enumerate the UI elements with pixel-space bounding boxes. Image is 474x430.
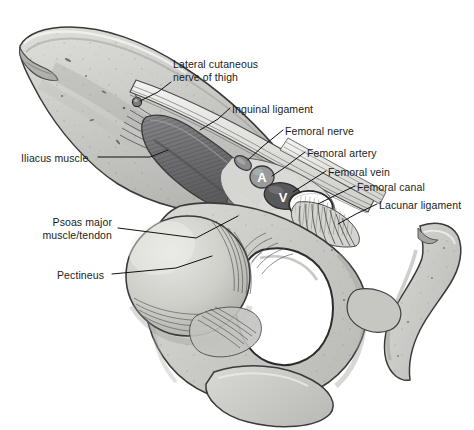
label-line-2: muscle/tendon (42, 229, 112, 241)
label-iliacus-muscle: Iliacus muscle (21, 152, 88, 165)
label-line-2: nerve of thigh (173, 71, 238, 83)
label-inguinal-ligament: Inguinal ligament (232, 103, 313, 116)
label-line-1: Lateral cutaneous (173, 58, 258, 70)
label-femoral-canal: Femoral canal (357, 181, 425, 194)
artery-marker-letter: A (257, 170, 267, 185)
label-lateral-cutaneous-nerve-of-thigh: Lateral cutaneousnerve of thigh (173, 58, 258, 83)
label-femoral-artery: Femoral artery (307, 147, 377, 160)
label-femoral-nerve: Femoral nerve (285, 125, 354, 138)
label-psoas-major-muscle-tendon: Psoas majormuscle/tendon (0, 216, 112, 241)
label-line-1: Psoas major (53, 216, 112, 228)
label-pectineus: Pectineus (57, 269, 104, 282)
label-lacunar-ligament: Lacunar ligament (379, 199, 461, 212)
label-femoral-vein: Femoral vein (328, 166, 390, 179)
vein-marker-letter: V (279, 190, 288, 205)
anatomy-illustration-canvas: A V Lateral cutaneousnerve of thigh Ingu… (0, 0, 474, 430)
